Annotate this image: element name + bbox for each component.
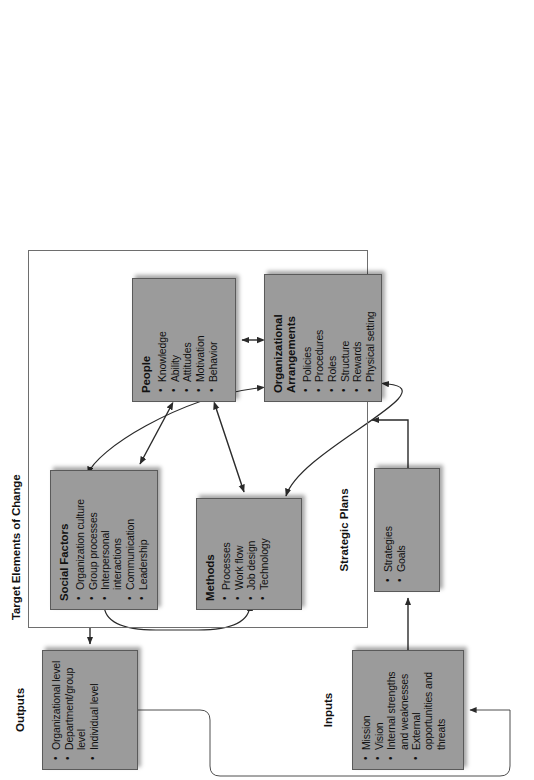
- list-item: Group processes: [87, 479, 99, 590]
- node-organizational-arrangements-list: Policies Procedures Roles Structure Rewa…: [301, 283, 377, 393]
- list-item: Motivation: [194, 287, 206, 382]
- target-elements-group-label: Target Elements of Change: [10, 474, 22, 620]
- node-inputs-list: Mission Vision Internal strengths and we…: [360, 659, 447, 761]
- list-item: Technology: [258, 507, 270, 590]
- list-item: Ability: [169, 287, 181, 382]
- node-people[interactable]: People Knowledge Ability Attitudes Motiv…: [132, 278, 236, 402]
- node-outputs-title: Outputs: [14, 650, 26, 770]
- node-methods-title: Methods: [204, 507, 217, 601]
- node-people-list: Knowledge Ability Attitudes Motivation B…: [156, 287, 219, 393]
- list-item: Policies: [301, 283, 313, 382]
- list-item: Structure: [339, 283, 351, 382]
- list-item: Goals: [395, 477, 407, 572]
- node-social-factors-title: Social Factors: [58, 479, 71, 601]
- node-outputs[interactable]: Organizational level Department/group le…: [42, 650, 138, 770]
- node-organizational-arrangements-title: Organizational Arrangements: [272, 283, 298, 393]
- list-item: Individual level: [88, 659, 100, 750]
- diagram-rotated-canvas: Target Elements of Change Mission Vision…: [0, 0, 534, 780]
- list-item: Organization culture: [74, 479, 86, 590]
- diagram-canvas: Target Elements of Change Mission Vision…: [0, 0, 534, 780]
- node-inputs[interactable]: Mission Vision Internal strengths and we…: [352, 650, 464, 770]
- list-item: Mission: [360, 659, 372, 750]
- node-people-title: People: [140, 287, 153, 393]
- list-item: Roles: [326, 283, 338, 382]
- list-item: Vision: [373, 659, 385, 750]
- list-item: Procedures: [313, 283, 325, 382]
- node-organizational-arrangements[interactable]: Organizational Arrangements Policies Pro…: [264, 274, 382, 402]
- list-item: Job design: [245, 507, 257, 590]
- node-methods-list: Processes Work flow Job design Technolog…: [220, 507, 270, 601]
- list-item: Work flow: [233, 507, 245, 590]
- node-strategic-plans-list: Strategies Goals: [382, 477, 407, 583]
- list-item: Organizational level: [50, 659, 62, 750]
- list-item: Communication: [124, 479, 136, 590]
- node-social-factors[interactable]: Social Factors Organization culture Grou…: [50, 470, 158, 610]
- list-item: External opportunities and threats: [410, 659, 447, 750]
- connector-strategic-plans-to-target-elements: [372, 420, 408, 468]
- node-social-factors-list: Organization culture Group processes Int…: [74, 479, 149, 601]
- list-item: Leadership: [137, 479, 149, 590]
- node-outputs-list: Organizational level Department/group le…: [50, 659, 100, 761]
- list-item: Internal strengths and weaknesses: [385, 659, 409, 750]
- list-item: Physical setting: [364, 283, 376, 382]
- list-item: Rewards: [351, 283, 363, 382]
- node-strategic-plans[interactable]: Strategies Goals: [374, 468, 440, 592]
- list-item: Behavior: [207, 287, 219, 382]
- list-item: Department/group level: [63, 659, 87, 750]
- node-strategic-plans-title: Strategic Plans: [338, 468, 351, 592]
- list-item: Knowledge: [156, 287, 168, 382]
- node-methods[interactable]: Methods Processes Work flow Job design T…: [196, 498, 302, 610]
- list-item: Processes: [220, 507, 232, 590]
- list-item: Interpersonal interactions: [99, 479, 123, 590]
- list-item: Attitudes: [181, 287, 193, 382]
- list-item: Strategies: [382, 477, 394, 572]
- node-inputs-title: Inputs: [322, 650, 334, 770]
